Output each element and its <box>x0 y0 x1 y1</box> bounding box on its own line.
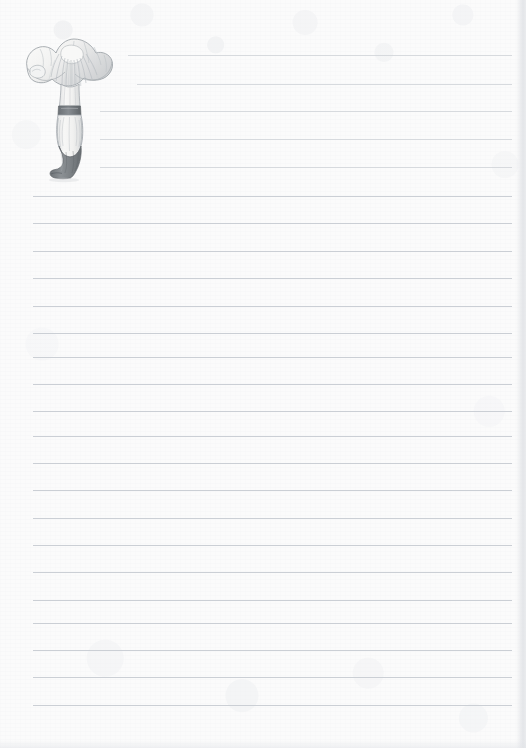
rule-line-25 <box>33 705 512 706</box>
rule-line-20 <box>33 572 512 573</box>
rule-line-24 <box>33 677 512 678</box>
rule-line-12 <box>33 357 512 358</box>
rule-line-9 <box>33 278 512 279</box>
rule-line-16 <box>33 463 512 464</box>
rule-line-2 <box>137 84 512 85</box>
rule-line-7 <box>33 223 512 224</box>
rule-line-14 <box>33 411 512 412</box>
rule-line-19 <box>33 545 512 546</box>
notepaper-page <box>0 0 526 748</box>
rule-line-6 <box>33 196 512 197</box>
mushroom-ground-shadow <box>49 178 79 182</box>
rule-line-17 <box>33 490 512 491</box>
mushroom-illustration <box>18 34 122 186</box>
upper-stem-shape <box>60 84 81 106</box>
mushroom-upper-stem <box>60 84 81 106</box>
mushroom-cap-group <box>27 39 113 87</box>
rule-line-3 <box>100 111 512 112</box>
rule-line-18 <box>33 518 512 519</box>
cap-left-lobe <box>30 65 45 78</box>
rule-line-23 <box>33 650 512 651</box>
rule-line-1 <box>128 55 512 56</box>
rule-line-21 <box>33 600 512 601</box>
rule-line-11 <box>33 333 512 334</box>
rule-line-13 <box>33 384 512 385</box>
rule-line-8 <box>33 251 512 252</box>
rule-line-4 <box>100 139 512 140</box>
ring-band-shape <box>58 106 81 115</box>
rule-line-22 <box>33 623 512 624</box>
rule-line-5 <box>100 167 512 168</box>
rule-line-15 <box>33 436 512 437</box>
mushroom-ring-band <box>58 106 81 115</box>
rule-line-10 <box>33 306 512 307</box>
